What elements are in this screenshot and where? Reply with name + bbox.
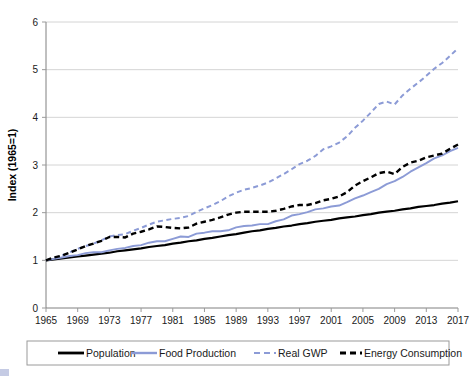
chart-container: 0123456 19651969197319771981198519891993… [0,0,472,376]
x-axis-ticks: 1965196919731977198119851989199319972001… [35,308,470,326]
x-tick-label: 2013 [415,315,438,326]
x-tick-label: 1993 [257,315,280,326]
legend-label: Energy Consumption [364,347,462,359]
y-axis-title: Index (1965=1) [6,129,18,202]
y-tick-label: 1 [32,255,38,266]
legend-label: Food Production [159,347,236,359]
x-tick-label: 1981 [162,315,185,326]
x-tick-label: 1997 [288,315,311,326]
y-axis-ticks: 0123456 [32,17,46,314]
y-tick-label: 2 [32,207,38,218]
y-tick-label: 5 [32,64,38,75]
x-tick-label: 1977 [130,315,153,326]
x-tick-label: 1969 [67,315,90,326]
x-tick-label: 2009 [383,315,406,326]
legend-label: Real GWP [278,347,328,359]
x-tick-label: 2017 [447,315,470,326]
x-tick-label: 1965 [35,315,58,326]
index-line-chart: 0123456 19651969197319771981198519891993… [0,0,472,376]
y-tick-label: 6 [32,17,38,28]
legend-label: Population [86,347,136,359]
x-tick-label: 2001 [320,315,343,326]
y-tick-label: 0 [32,303,38,314]
corner-artifact [0,369,9,376]
x-tick-label: 1973 [98,315,121,326]
x-tick-label: 1989 [225,315,248,326]
y-tick-label: 4 [32,112,38,123]
x-tick-label: 2005 [352,315,375,326]
y-tick-label: 3 [32,160,38,171]
x-tick-label: 1985 [193,315,216,326]
